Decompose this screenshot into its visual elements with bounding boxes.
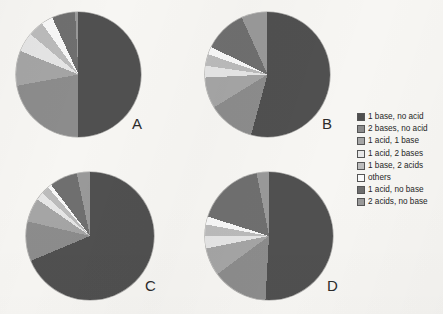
pie-cell-d: D: [205, 172, 350, 300]
pie-chart-b: [205, 12, 330, 137]
pie-cell-b: B: [205, 12, 345, 137]
legend-item[interactable]: 1 acid, no base: [357, 184, 441, 196]
pie-label-a: A: [132, 116, 142, 131]
legend-swatch-icon: [357, 174, 365, 182]
legend-item[interactable]: 2 bases, no acid: [357, 123, 441, 135]
legend: 1 base, no acid2 bases, no acid1 acid, 1…: [357, 111, 441, 209]
legend-label: 2 acids, no base: [368, 198, 428, 206]
legend-label: 2 bases, no acid: [368, 125, 428, 133]
legend-item[interactable]: 2 acids, no base: [357, 196, 441, 208]
legend-label: 1 acid, 2 bases: [368, 150, 423, 158]
legend-swatch-icon: [357, 162, 365, 170]
legend-swatch-icon: [357, 198, 365, 206]
pie-cell-c: C: [26, 172, 166, 300]
legend-swatch-icon: [357, 186, 365, 194]
pie-cell-a: A: [16, 12, 156, 137]
legend-item[interactable]: 1 acid, 1 base: [357, 135, 441, 147]
pie-chart-a: [16, 12, 141, 137]
legend-label: others: [368, 174, 391, 182]
legend-item[interactable]: others: [357, 172, 441, 184]
pie-chart-figure: A B C D 1 base, no acid2 bases, no acid1…: [0, 0, 443, 314]
legend-label: 1 acid, no base: [368, 186, 424, 194]
pie-label-b: B: [322, 116, 332, 131]
pie-label-d: D: [327, 278, 338, 293]
pie-label-c: C: [145, 278, 156, 293]
legend-item[interactable]: 1 base, 2 acids: [357, 160, 441, 172]
legend-swatch-icon: [357, 125, 365, 133]
legend-label: 1 base, no acid: [368, 113, 424, 121]
legend-swatch-icon: [357, 113, 365, 121]
legend-label: 1 base, 2 acids: [368, 162, 423, 170]
legend-item[interactable]: 1 base, no acid: [357, 111, 441, 123]
legend-label: 1 acid, 1 base: [368, 137, 419, 145]
legend-swatch-icon: [357, 150, 365, 158]
legend-swatch-icon: [357, 137, 365, 145]
legend-item[interactable]: 1 acid, 2 bases: [357, 148, 441, 160]
pie-chart-c: [26, 172, 154, 300]
pie-chart-d: [205, 172, 333, 300]
